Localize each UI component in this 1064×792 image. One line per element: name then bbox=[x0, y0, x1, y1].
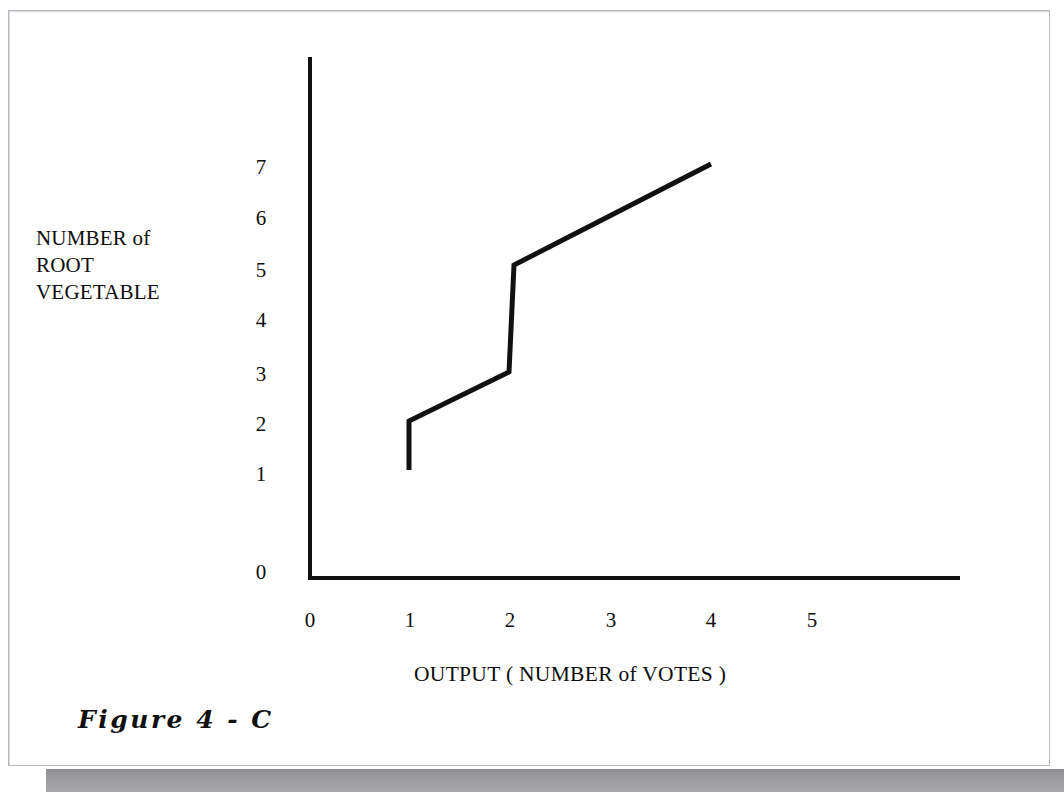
chart-plot-area: 0 1 2 3 4 5 6 7 0 1 2 3 4 5 NUMBER of RO… bbox=[0, 0, 1064, 792]
y-tick-label-1: 1 bbox=[246, 462, 276, 487]
y-tick-label-3: 3 bbox=[246, 362, 276, 387]
x-tick-label-4: 4 bbox=[696, 608, 726, 633]
x-tick-label-5: 5 bbox=[797, 608, 827, 633]
x-tick-label-0: 0 bbox=[295, 608, 325, 633]
figure-root: 0 1 2 3 4 5 6 7 0 1 2 3 4 5 NUMBER of RO… bbox=[0, 0, 1064, 792]
y-tick-label-0: 0 bbox=[246, 560, 276, 585]
figure-caption: Figure 4 - C bbox=[78, 705, 274, 734]
y-tick-label-7: 7 bbox=[246, 155, 276, 180]
data-series-line bbox=[409, 164, 711, 470]
x-tick-label-1: 1 bbox=[395, 608, 425, 633]
y-tick-label-2: 2 bbox=[246, 412, 276, 437]
y-tick-label-4: 4 bbox=[246, 308, 276, 333]
x-axis-title: OUTPUT ( NUMBER of VOTES ) bbox=[414, 662, 726, 687]
x-tick-label-2: 2 bbox=[495, 608, 525, 633]
y-axis-title: NUMBER of ROOT VEGETABLE bbox=[36, 225, 251, 306]
x-tick-label-3: 3 bbox=[596, 608, 626, 633]
scan-bottom-strip bbox=[46, 769, 1064, 792]
